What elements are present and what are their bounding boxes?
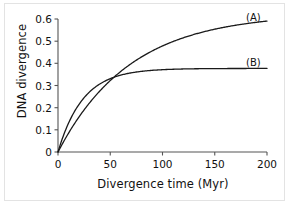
x-tick-0: 0 — [41, 158, 75, 170]
y-tick-0.2: 0.2 — [26, 102, 52, 114]
plot-area: 0.6 0.5 0.4 0.3 0.2 0.1 0 0 50 100 150 2… — [0, 0, 289, 205]
x-tick-100: 100 — [146, 158, 180, 170]
x-tick-50: 50 — [93, 158, 127, 170]
y-tick-0: 0 — [26, 146, 52, 158]
y-tick-0.4: 0.4 — [26, 57, 52, 69]
y-tick-0.3: 0.3 — [26, 80, 52, 92]
series-line-a — [58, 21, 267, 152]
x-tick-150: 150 — [198, 158, 232, 170]
y-tick-0.6: 0.6 — [26, 13, 52, 25]
y-axis-title: DNA divergence — [15, 16, 29, 126]
y-tick-0.5: 0.5 — [26, 35, 52, 47]
chart-figure: 0.6 0.5 0.4 0.3 0.2 0.1 0 0 50 100 150 2… — [0, 0, 289, 205]
series-label-b: (B) — [246, 57, 261, 68]
series-line-b — [58, 68, 267, 152]
y-tick-0.1: 0.1 — [26, 124, 52, 136]
x-tick-200: 200 — [250, 158, 284, 170]
series-label-a: (A) — [246, 12, 261, 23]
x-axis-title: Divergence time (Myr) — [58, 177, 268, 191]
